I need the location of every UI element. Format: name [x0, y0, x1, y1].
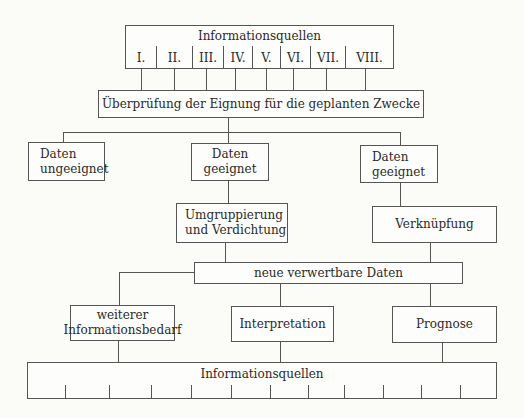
connector [365, 68, 366, 90]
regroup-condense-box: Umgruppierung und Verdichtung [176, 203, 288, 243]
data-suitable-box-1: Daten geeignet [191, 143, 269, 181]
connector [400, 132, 401, 145]
source-cell-1: I. [126, 48, 156, 68]
suitability-check-box: Überprüfung der Eignung für die geplante… [98, 90, 424, 118]
tick [383, 385, 384, 398]
connector [206, 68, 207, 90]
top-sources-title: Informationsquellen [126, 29, 393, 44]
source-cell-8: VIII. [346, 48, 393, 68]
tick [460, 385, 461, 398]
connector [63, 132, 401, 133]
source-cell-7: VII. [311, 48, 345, 68]
tick [308, 385, 309, 398]
connector [174, 68, 175, 90]
connector [63, 132, 64, 142]
tick [109, 385, 110, 398]
connector [118, 340, 119, 362]
bottom-information-sources-box: Informationsquellen [27, 362, 497, 399]
source-cell-5: V. [253, 48, 280, 68]
data-suitable-box-2: Daten geeignet [360, 145, 438, 183]
further-info-need-box: weiterer Informationsbedarf [70, 305, 175, 341]
top-information-sources-box: Informationsquellen I. II. III. IV. V. V… [125, 25, 394, 69]
connector [235, 68, 236, 90]
source-cell-6: VI. [281, 48, 310, 68]
connector [119, 272, 120, 305]
tick [270, 385, 271, 398]
connector [225, 242, 226, 262]
connector [266, 68, 267, 90]
data-unsuitable-box: Daten ungeeignet [28, 142, 105, 181]
connector [228, 180, 229, 203]
tick [151, 385, 152, 398]
source-cell-3: III. [193, 48, 223, 68]
connector [280, 283, 281, 306]
connector [141, 68, 142, 90]
connector [430, 242, 431, 262]
connector [430, 283, 431, 306]
interpretation-box: Interpretation [231, 306, 334, 342]
tick [65, 385, 66, 398]
connector [442, 342, 443, 362]
bottom-sources-title: Informationsquellen [28, 367, 496, 382]
source-cell-2: II. [157, 48, 192, 68]
source-cell-4: IV. [224, 48, 252, 68]
tick [344, 385, 345, 398]
connector [280, 341, 281, 362]
connector [293, 68, 294, 90]
connector [326, 68, 327, 90]
tick [421, 385, 422, 398]
tick [231, 385, 232, 398]
forecast-box: Prognose [392, 306, 497, 343]
connector [119, 272, 194, 273]
tick [191, 385, 192, 398]
linking-box: Verknüpfung [372, 206, 497, 243]
connector [400, 182, 401, 206]
connector [228, 117, 229, 143]
new-usable-data-box: neue verwertbare Daten [194, 262, 463, 284]
